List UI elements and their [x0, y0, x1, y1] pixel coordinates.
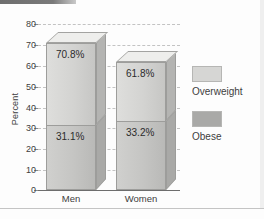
bar-men-label-overweight: 70.8%	[56, 50, 84, 60]
legend-item-obese[interactable]: Obese	[192, 111, 262, 142]
bar-women-side-obese	[166, 110, 176, 190]
legend-swatch-overweight	[192, 66, 222, 82]
bar-women-label-obese: 33.2%	[126, 128, 154, 138]
ytick-label-10: 10	[10, 166, 36, 175]
ytick-label-20: 20	[10, 145, 36, 154]
xtick-label-men: Men	[36, 193, 106, 204]
footer-rule	[0, 208, 264, 209]
bar-men-label-obese: 31.1%	[56, 132, 84, 142]
bar-men-side-obese	[96, 114, 106, 190]
legend-label-overweight: Overweight	[192, 86, 262, 97]
bar-men-side-overweight	[96, 32, 106, 125]
legend-swatch-obese	[192, 111, 222, 127]
ytick-label-70: 70	[10, 41, 36, 50]
y-axis-title: Percent	[10, 79, 20, 139]
chart-legend: Overweight Obese	[192, 66, 262, 156]
ytick-label-80: 80	[10, 20, 36, 29]
legend-label-obese: Obese	[192, 131, 262, 142]
plot-area: 80 70 60 50 40 30 20 10 0 Percent 70.8% …	[0, 0, 264, 208]
chart-figure: 80 70 60 50 40 30 20 10 0 Percent 70.8% …	[0, 0, 264, 219]
bar-women-label-overweight: 61.8%	[126, 69, 154, 79]
legend-item-overweight[interactable]: Overweight	[192, 66, 262, 97]
ytick-label-0: 0	[10, 186, 36, 195]
x-axis-line	[38, 190, 180, 191]
ytick-label-60: 60	[10, 62, 36, 71]
xtick-label-women: Women	[106, 193, 176, 204]
gridline-80	[38, 24, 180, 25]
